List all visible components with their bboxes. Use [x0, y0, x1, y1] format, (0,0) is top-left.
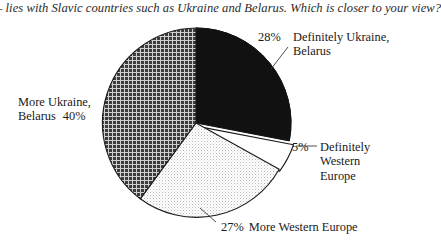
- pie-label-more-ukraine-line2-wrap: Belarus40%: [18, 109, 91, 123]
- pie-value-definitely-ukraine-belarus: 28%: [258, 30, 281, 44]
- pie-value-definitely-western-europe: 5%: [292, 140, 309, 154]
- pie-label-more-western-europe: 27%More Western Europe: [221, 220, 358, 234]
- pie-label-definitely-western-line1: Definitely: [320, 140, 370, 154]
- leader-line-definitely-ukraine: [271, 47, 288, 69]
- pie-label-more-ukraine-line2: Belarus: [18, 109, 56, 123]
- pie-label-more-western-line1: More Western Europe: [249, 220, 358, 234]
- pie-label-more-ukraine-belarus: More Ukraine, Belarus40%: [18, 95, 91, 124]
- pie-label-definitely-western-line3: Europe: [320, 169, 370, 183]
- pie-label-definitely-ukraine-belarus: 28% Definitely Ukraine, Belarus: [293, 30, 389, 59]
- pie-label-definitely-western-line2: Western: [320, 154, 370, 168]
- pie-label-more-ukraine-line1: More Ukraine,: [18, 95, 91, 109]
- pie-label-definitely-ukraine-line2: Belarus: [293, 44, 389, 58]
- pie-value-more-ukraine-belarus: 40%: [63, 109, 86, 123]
- pie-value-more-western-europe: 27%: [221, 220, 244, 234]
- pie-label-definitely-ukraine-line1: Definitely Ukraine,: [293, 30, 389, 44]
- pie-slice-definitely-ukraine-belarus: [196, 28, 291, 141]
- pie-label-definitely-western-europe: 5% Definitely Western Europe: [320, 140, 370, 183]
